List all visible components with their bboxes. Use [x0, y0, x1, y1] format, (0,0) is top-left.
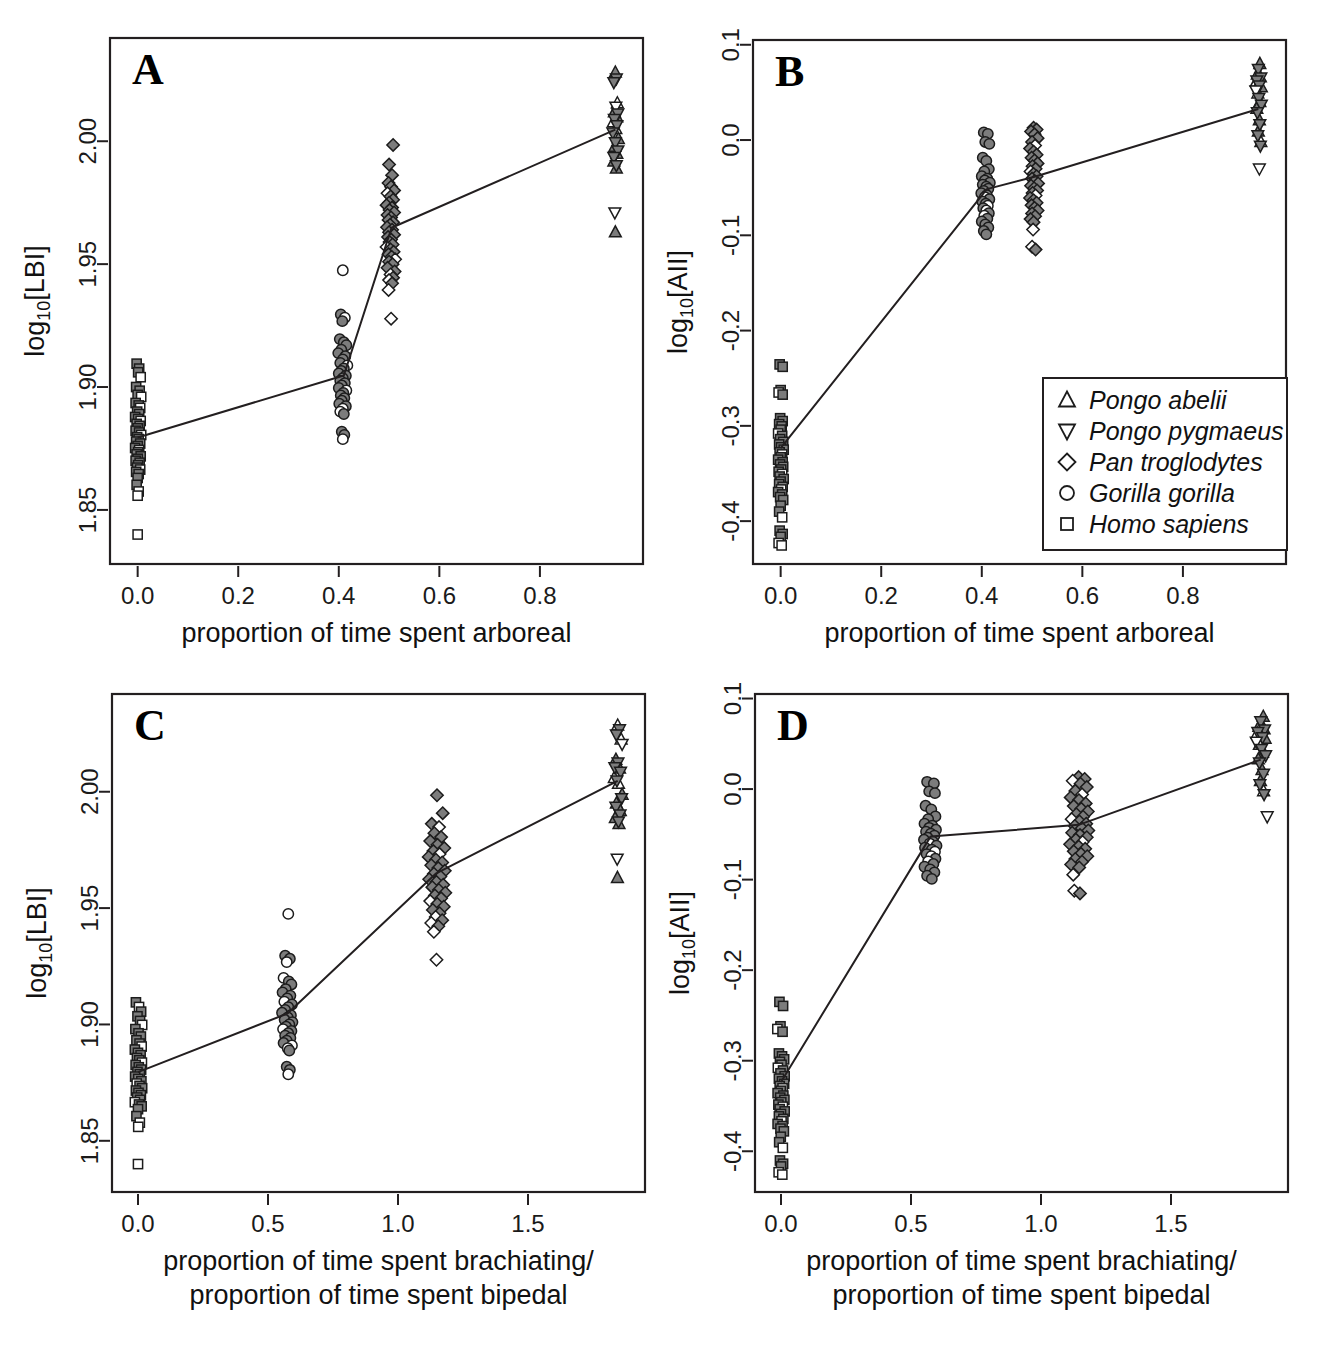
data-point [778, 1170, 787, 1179]
trend-line [781, 760, 1261, 1082]
x-tick-label: 1.0 [1024, 1210, 1057, 1237]
plot-frame [755, 694, 1288, 1192]
x-axis-title: proportion of time spent brachiating/ [806, 1246, 1237, 1276]
panel-d: 0.00.51.01.50.10.0-0.1-0.2-0.3-0.4log10[… [0, 0, 1319, 1354]
x-axis-title-line2: proportion of time spent bipedal [832, 1280, 1210, 1310]
series-pan-troglodytes [1064, 771, 1095, 900]
panel-letter: D [777, 701, 809, 750]
data-point [930, 788, 940, 798]
y-tick-label: 0.0 [720, 772, 747, 805]
y-tick-label: -0.3 [720, 1040, 747, 1081]
y-tick-label: -0.1 [720, 859, 747, 900]
series-gorilla-gorilla [919, 777, 942, 884]
y-tick-label: -0.2 [720, 949, 747, 990]
data-point [778, 1001, 787, 1010]
y-tick-label: -0.4 [720, 1131, 747, 1172]
y-axis-title: log10[AII] [665, 891, 699, 995]
multi-panel-figure: 0.00.20.40.60.81.851.901.952.00log10[LBI… [0, 0, 1319, 1354]
data-point [778, 1027, 787, 1036]
data-point [1261, 812, 1273, 823]
x-tick-label: 1.5 [1154, 1210, 1187, 1237]
y-tick-label: 0.1 [720, 682, 747, 715]
data-layer [773, 710, 1273, 1179]
x-tick-label: 0.0 [764, 1210, 797, 1237]
series-homo-sapiens [773, 997, 789, 1179]
data-point [927, 874, 937, 884]
x-tick-label: 0.5 [894, 1210, 927, 1237]
data-point [778, 1143, 787, 1152]
